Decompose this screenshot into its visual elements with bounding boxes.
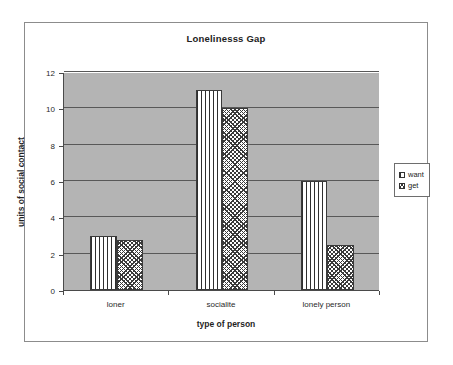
bar-want-loner: [90, 236, 116, 291]
plot-area: [63, 73, 379, 291]
legend-swatch-icon: [399, 172, 405, 178]
bar-get-loner: [117, 240, 143, 290]
x-axis-tick-mark: [63, 291, 64, 295]
legend-label: get: [408, 181, 418, 190]
y-axis-tick-label: 10: [33, 105, 55, 114]
legend-item-get[interactable]: get: [399, 181, 424, 190]
legend-swatch-icon: [399, 183, 405, 189]
y-axis-tick-label: 4: [33, 214, 55, 223]
gridline: [64, 71, 379, 72]
bar-want-socialite: [196, 90, 222, 290]
x-axis-category-label: loner: [107, 300, 125, 309]
chart-frame: Lonelinesss Gap units of social contact …: [24, 22, 428, 342]
x-axis-category-label: lonely person: [303, 300, 351, 309]
x-axis-tick-mark: [274, 291, 275, 295]
chart-title: Lonelinesss Gap: [25, 33, 427, 44]
x-axis-category-label: socialite: [207, 300, 236, 309]
bar-want-lonely-person: [301, 181, 327, 290]
x-axis-tick-mark: [379, 291, 380, 295]
x-axis-title: type of person: [25, 319, 427, 329]
y-axis-title: units of social contact: [16, 137, 26, 227]
legend-label: want: [408, 170, 424, 179]
y-axis-tick-label: 8: [33, 141, 55, 150]
chart-legend[interactable]: wantget: [394, 163, 430, 197]
x-axis-tick-mark: [168, 291, 169, 295]
bar-get-socialite: [222, 108, 248, 290]
y-axis-tick-label: 0: [33, 287, 55, 296]
legend-item-want[interactable]: want: [399, 170, 424, 179]
y-axis-tick-label: 2: [33, 250, 55, 259]
y-axis-tick-label: 12: [33, 69, 55, 78]
bar-get-lonely-person: [327, 245, 353, 290]
y-axis-tick-label: 6: [33, 178, 55, 187]
